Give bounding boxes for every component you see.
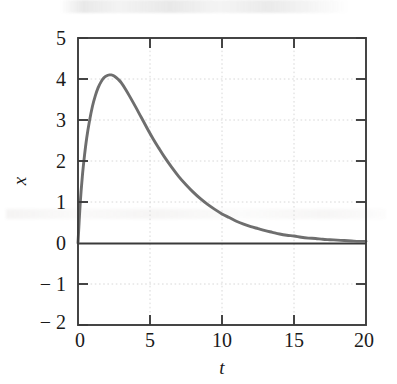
ytick-label-4: 4 <box>38 69 66 89</box>
x-axis-title: t <box>219 357 224 379</box>
xtick-label-10: 10 <box>212 330 232 350</box>
ytick-label-3: 3 <box>38 110 66 130</box>
ytick-label-1: 1 <box>38 192 66 212</box>
ytick-label-2: 2 <box>38 151 66 171</box>
ytick-label-minus2: − 2 <box>24 312 66 332</box>
ytick-label-0: 0 <box>38 233 66 253</box>
xtick-label-0: 0 <box>75 330 85 350</box>
y-axis-title: x <box>9 177 31 185</box>
xtick-label-15: 15 <box>284 330 304 350</box>
ytick-label-5: 5 <box>38 28 66 48</box>
xtick-label-5: 5 <box>145 330 155 350</box>
xtick-label-20: 20 <box>354 330 374 350</box>
ytick-label-minus1: − 1 <box>24 274 66 294</box>
chart-figure: 5 4 3 2 1 0 − 1 − 2 0 5 10 15 20 x t <box>0 0 397 384</box>
data-curve <box>78 75 366 243</box>
